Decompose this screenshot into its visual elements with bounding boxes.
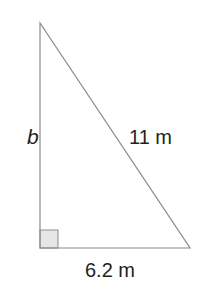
label-side-b: b bbox=[27, 125, 39, 148]
label-base: 6.2 m bbox=[85, 259, 135, 281]
right-angle-marker bbox=[40, 230, 58, 248]
label-hypotenuse: 11 m bbox=[129, 126, 172, 148]
triangle-diagram: b 11 m 6.2 m bbox=[0, 0, 198, 287]
